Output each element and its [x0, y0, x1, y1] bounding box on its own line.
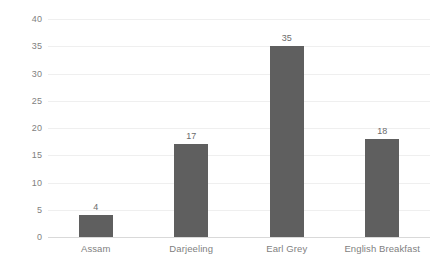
bars-layer: 4173518 [48, 19, 430, 237]
bar[interactable] [79, 215, 113, 237]
bar-group: 35 [239, 19, 335, 237]
bar-value-label: 35 [282, 33, 292, 43]
bar-group: 18 [335, 19, 431, 237]
bar[interactable] [365, 139, 399, 237]
bar-chart: 0510152025303540 4173518 AssamDarjeeling… [0, 0, 442, 276]
y-axis-tick-label: 35 [12, 41, 42, 51]
y-axis-tick-label: 5 [12, 205, 42, 215]
bar[interactable] [174, 144, 208, 237]
x-axis-tick-label: Darjeeling [169, 243, 213, 254]
x-axis-tick-label: Earl Grey [266, 243, 307, 254]
bar[interactable] [270, 46, 304, 237]
x-axis-tick-label: English Breakfast [344, 243, 420, 254]
bar-group: 17 [144, 19, 240, 237]
y-axis-tick-label: 40 [12, 14, 42, 24]
y-axis-tick-label: 20 [12, 123, 42, 133]
bar-value-label: 18 [377, 126, 387, 136]
bar-group: 4 [48, 19, 144, 237]
y-axis-tick-label: 30 [12, 69, 42, 79]
y-axis-tick-label: 10 [12, 178, 42, 188]
x-axis-tick-label: Assam [81, 243, 111, 254]
y-axis-tick-label: 0 [12, 232, 42, 242]
bar-value-label: 4 [93, 202, 98, 212]
y-axis-tick-label: 15 [12, 150, 42, 160]
y-axis-tick-label: 25 [12, 96, 42, 106]
axis-baseline [48, 237, 430, 238]
bar-value-label: 17 [186, 131, 196, 141]
